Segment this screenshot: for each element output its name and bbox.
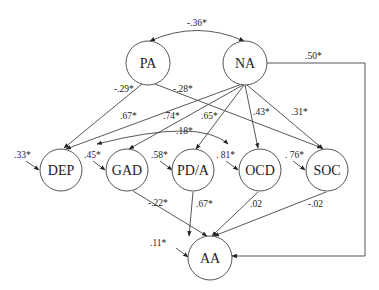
ocd-residual-label: . 81*: [216, 150, 235, 160]
soc-residual-arrow: [293, 161, 305, 170]
na-soc-label: .31*: [291, 107, 308, 117]
na-gad-arrow: [129, 85, 243, 149]
node-pda: PD/A: [172, 149, 214, 191]
pa-na-covariance-arrow: [150, 31, 244, 42]
na-pda-label: .65*: [201, 111, 218, 121]
na-ocd-label: .43*: [253, 107, 270, 117]
path-diagram: -.36* -.29* -.28* .67* .74* .65* .43* .3…: [0, 0, 379, 290]
node-na-label: NA: [235, 56, 256, 71]
node-pa-label: PA: [140, 56, 158, 71]
node-aa-label: AA: [200, 251, 221, 266]
node-dep-label: DEP: [48, 163, 75, 178]
node-gad: GAD: [106, 149, 148, 191]
dep-residual-label: .33*: [14, 150, 31, 160]
gad-ocd-covariance-label: .18*: [176, 126, 193, 136]
gad-aa-arrow: [133, 191, 207, 236]
node-ocd-label: OCD: [245, 163, 275, 178]
node-dep: DEP: [40, 149, 82, 191]
node-na: NA: [223, 41, 267, 85]
pda-aa-arrow: [189, 192, 193, 236]
pda-residual-arrow: [160, 161, 172, 170]
aa-residual-label: .11*: [150, 238, 167, 248]
pa-dep-label: -.29*: [114, 84, 134, 94]
ocd-residual-arrow: [226, 161, 238, 170]
pa-na-covariance-label: -.36*: [187, 18, 207, 28]
node-aa: AA: [188, 236, 232, 280]
aa-residual-arrow: [176, 248, 188, 257]
na-dep-label: .67*: [120, 111, 137, 121]
ocd-aa-label: .02: [250, 199, 262, 209]
node-ocd: OCD: [239, 149, 281, 191]
soc-aa-label: -.02: [308, 199, 323, 209]
pa-soc-label: -.28*: [173, 84, 193, 94]
node-soc: SOC: [306, 149, 348, 191]
gad-residual-label: .45*: [84, 150, 101, 160]
pda-residual-label: .58*: [151, 150, 168, 160]
pda-aa-label: .67*: [196, 199, 213, 209]
gad-aa-label: -.22*: [148, 198, 168, 208]
soc-residual-label: . 76*: [285, 150, 304, 160]
dep-residual-arrow: [26, 161, 39, 170]
node-pa: PA: [126, 41, 170, 85]
node-gad-label: GAD: [112, 163, 142, 178]
node-soc-label: SOC: [313, 163, 340, 178]
na-soc-arrow: [247, 85, 323, 149]
gad-residual-arrow: [93, 161, 105, 170]
node-pda-label: PD/A: [177, 163, 210, 178]
na-aa-label: .50*: [305, 51, 322, 61]
na-gad-label: .74*: [163, 111, 180, 121]
